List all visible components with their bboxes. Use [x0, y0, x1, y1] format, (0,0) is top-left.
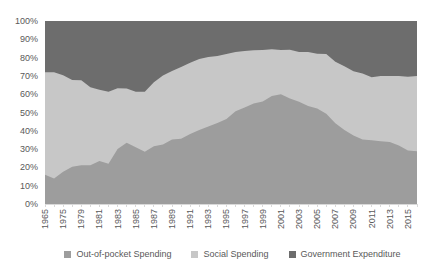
y-axis-label: 80%	[20, 53, 38, 63]
x-axis-label: 1989	[167, 209, 177, 229]
x-axis	[45, 204, 417, 207]
x-axis-label: 1965	[40, 209, 50, 229]
y-axis-label: 60%	[20, 89, 38, 99]
y-axis-label: 20%	[20, 162, 38, 172]
x-axis-label: 2007	[330, 209, 340, 229]
legend-item-social-spending: Social Spending	[191, 249, 268, 259]
x-axis-label: 2013	[385, 209, 395, 229]
plot-svg: 0%10%20%30%40%50%60%70%80%90%100%1965197…	[0, 0, 427, 270]
x-axis-label: 1981	[94, 209, 104, 229]
x-axis-label: 1979	[76, 209, 86, 229]
y-axis-label: 50%	[20, 108, 38, 118]
x-axis-label: 1985	[131, 209, 141, 229]
legend-item-government-expenditure: Government Expenditure	[289, 249, 401, 259]
legend-swatch-government-expenditure	[289, 251, 296, 258]
x-axis-label: 1983	[113, 209, 123, 229]
x-axis-label: 2001	[276, 209, 286, 229]
x-axis-label: 1987	[149, 209, 159, 229]
y-axis-label: 90%	[20, 34, 38, 44]
y-axis-label: 40%	[20, 126, 38, 136]
x-axis-label: 1975	[58, 209, 68, 229]
legend: Out-of-pocket SpendingSocial SpendingGov…	[38, 247, 427, 261]
legend-label: Social Spending	[203, 249, 268, 259]
x-axis-label: 2003	[294, 209, 304, 229]
legend-label: Out-of-pocket Spending	[76, 249, 171, 259]
legend-swatch-out-of-pocket-spending	[64, 251, 71, 258]
plot-areas	[45, 21, 417, 204]
x-axis-label: 1993	[203, 209, 213, 229]
x-axis-label: 2009	[348, 209, 358, 229]
x-axis-label: 2005	[312, 209, 322, 229]
y-axis-label: 30%	[20, 144, 38, 154]
x-axis-label: 2015	[403, 209, 413, 229]
y-axis-label: 10%	[20, 181, 38, 191]
x-axis-label: 1991	[185, 209, 195, 229]
y-axis-label: 100%	[15, 16, 38, 26]
x-axis-labels: 1965197519791981198319851987198919911993…	[40, 209, 413, 229]
x-axis-label: 2011	[367, 209, 377, 228]
x-axis-label: 1995	[221, 209, 231, 229]
x-axis-label: 1997	[240, 209, 250, 229]
legend-item-out-of-pocket-spending: Out-of-pocket Spending	[64, 249, 171, 259]
y-axis-label: 0%	[25, 199, 38, 209]
legend-swatch-social-spending	[191, 251, 198, 258]
stacked-area-chart: 0%10%20%30%40%50%60%70%80%90%100%1965197…	[0, 0, 427, 270]
x-axis-label: 1999	[258, 209, 268, 229]
y-axis-labels: 0%10%20%30%40%50%60%70%80%90%100%	[15, 16, 38, 209]
y-axis-label: 70%	[20, 71, 38, 81]
legend-label: Government Expenditure	[301, 249, 401, 259]
